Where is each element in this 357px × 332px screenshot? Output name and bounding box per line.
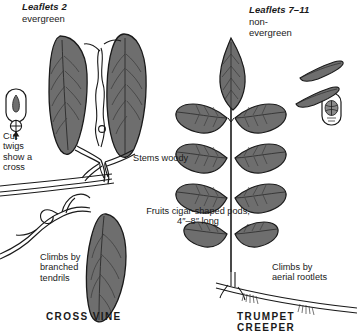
climbs-tendrils-note: Climbs by branched tendrils — [40, 252, 80, 283]
cut-twig-note: Cut twigs show a cross — [3, 131, 32, 172]
species-name-trumpet-creeper: TRUMPET CREEPER — [237, 311, 357, 332]
cross-vine-tendril-lower — [0, 194, 91, 259]
species-name-cross-vine: CROSS VINE — [46, 311, 122, 322]
left-subheading: evergreen — [22, 14, 65, 25]
right-subheading: non- evergreen — [249, 17, 292, 38]
cross-vine-leaflet-left — [49, 36, 87, 154]
trumpet-creeper-terminal-leaflet — [220, 38, 245, 110]
trumpet-creeper-illustration — [176, 38, 357, 315]
climbs-rootlets-note: Climbs by aerial rootlets — [272, 262, 327, 283]
fruits-pods-label: Fruits cigar-shaped pods, 4″–8″ long — [130, 206, 266, 227]
cross-vine-leaflet-right — [107, 34, 146, 157]
left-heading: Leaflets 2 — [22, 2, 67, 13]
stems-woody-label: Stems woody — [133, 153, 188, 163]
cross-vine-leaf-lower — [86, 214, 126, 322]
right-heading: Leaflets 7–11 — [249, 5, 309, 16]
